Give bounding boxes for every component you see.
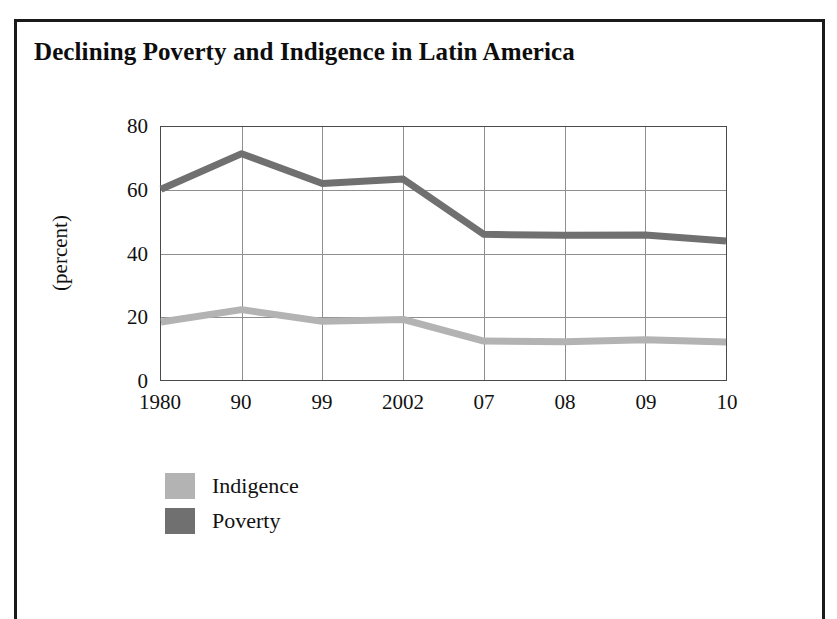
y-tick-label: 0 bbox=[88, 371, 148, 392]
y-tick-label: 80 bbox=[88, 116, 148, 137]
x-axis-tick-labels: 1980 90 99 2002 07 08 09 10 bbox=[160, 392, 727, 418]
series-line-indigence bbox=[161, 310, 726, 342]
y-tick-label: 20 bbox=[88, 307, 148, 328]
y-axis-title: (percent) bbox=[48, 215, 73, 291]
legend-label-poverty: Poverty bbox=[212, 510, 280, 532]
x-tick-label: 08 bbox=[554, 392, 575, 413]
legend-item-indigence: Indigence bbox=[165, 468, 299, 503]
x-tick-label: 1980 bbox=[139, 392, 181, 413]
plot-area bbox=[160, 126, 727, 381]
x-tick-label: 10 bbox=[717, 392, 738, 413]
legend-item-poverty: Poverty bbox=[165, 503, 299, 538]
x-tick-label: 99 bbox=[311, 392, 332, 413]
chart-title: Declining Poverty and Indigence in Latin… bbox=[34, 38, 575, 66]
legend-label-indigence: Indigence bbox=[212, 475, 299, 497]
x-tick-label: 09 bbox=[635, 392, 656, 413]
y-axis-tick-labels: 80 60 40 20 0 bbox=[88, 126, 148, 381]
x-tick-label: 07 bbox=[473, 392, 494, 413]
legend-swatch-indigence bbox=[165, 473, 195, 499]
legend-swatch-poverty bbox=[165, 508, 195, 534]
plot-wrap bbox=[160, 126, 727, 381]
y-tick-label: 60 bbox=[88, 179, 148, 200]
x-tick-label: 90 bbox=[230, 392, 251, 413]
y-tick-label: 40 bbox=[88, 243, 148, 264]
chart-legend: Indigence Poverty bbox=[165, 468, 299, 538]
x-tick-label: 2002 bbox=[382, 392, 424, 413]
series-plot bbox=[161, 127, 726, 381]
series-line-poverty bbox=[161, 154, 726, 241]
